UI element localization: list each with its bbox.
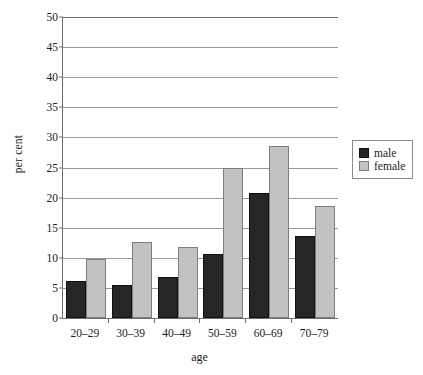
bar-female[interactable] xyxy=(223,168,243,318)
bar-male[interactable] xyxy=(203,254,223,318)
bar-male[interactable] xyxy=(112,285,132,318)
x-axis-tick-mark xyxy=(154,318,155,323)
x-axis-tick-mark xyxy=(199,318,200,323)
x-axis-tick-mark xyxy=(108,318,109,323)
legend-item-male[interactable]: male xyxy=(359,147,405,159)
y-axis-tick-label: 50 xyxy=(47,11,59,23)
x-axis-tick-label: 40–49 xyxy=(154,327,200,339)
bar-male[interactable] xyxy=(66,281,86,318)
y-axis-tick-label: 25 xyxy=(47,162,59,174)
legend-item-female[interactable]: female xyxy=(359,160,405,172)
x-axis-tick-label: 70–79 xyxy=(291,327,337,339)
bar-female[interactable] xyxy=(269,146,289,318)
y-axis-tick-label: 20 xyxy=(47,192,59,204)
legend-label: female xyxy=(374,160,405,172)
y-axis-tick-label: 35 xyxy=(47,101,59,113)
y-axis-title: per cent xyxy=(12,114,24,194)
y-axis-tick-label: 15 xyxy=(47,222,59,234)
bar-group xyxy=(292,17,338,318)
y-axis-tick-label: 40 xyxy=(47,71,59,83)
bar-chart-figure: per cent 05101520253035404550 20–2930–39… xyxy=(0,0,423,375)
x-axis-tick-label: 50–59 xyxy=(199,327,245,339)
bar-male[interactable] xyxy=(249,193,269,318)
legend-swatch-female xyxy=(359,161,369,171)
bar-female[interactable] xyxy=(132,242,152,318)
bar-male[interactable] xyxy=(158,277,178,318)
plot-area: 05101520253035404550 xyxy=(62,17,338,319)
x-axis-tick-mark xyxy=(291,318,292,323)
bar-group xyxy=(63,17,109,318)
y-axis-tick-label: 45 xyxy=(47,41,59,53)
bar-groups xyxy=(63,17,338,318)
legend-swatch-male xyxy=(359,148,369,158)
x-axis-tick-label: 30–39 xyxy=(108,327,154,339)
y-axis-tick-label: 0 xyxy=(52,312,58,324)
bar-female[interactable] xyxy=(178,247,198,318)
bar-group xyxy=(200,17,246,318)
bar-group xyxy=(109,17,155,318)
bar-female[interactable] xyxy=(315,206,335,318)
y-axis-tick-label: 5 xyxy=(52,282,58,294)
y-axis-tick-label: 30 xyxy=(47,131,59,143)
chart-legend: malefemale xyxy=(352,140,413,179)
bar-male[interactable] xyxy=(295,236,315,318)
x-axis-tick-label: 20–29 xyxy=(62,327,108,339)
x-axis-tick-mark xyxy=(245,318,246,323)
x-axis-tick-label: 60–69 xyxy=(245,327,291,339)
bar-group xyxy=(246,17,292,318)
legend-label: male xyxy=(374,147,396,159)
bar-group xyxy=(155,17,201,318)
bar-female[interactable] xyxy=(86,259,106,318)
x-axis-tick-labels: 20–2930–3940–4950–5960–6970–79 xyxy=(62,327,337,339)
x-axis-title: age xyxy=(62,350,337,365)
y-axis-tick-label: 10 xyxy=(47,252,59,264)
